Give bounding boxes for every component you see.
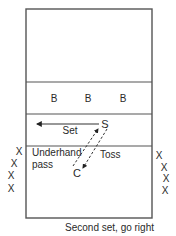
blocker-2: B bbox=[85, 93, 92, 104]
underhand-pass-label: Underhand bbox=[32, 147, 81, 158]
left-line-player-1: X bbox=[16, 146, 23, 157]
blocker-3: B bbox=[120, 93, 127, 104]
left-line-player-3: X bbox=[8, 170, 15, 181]
right-line-player-2: X bbox=[161, 162, 168, 173]
court-lines bbox=[26, 82, 152, 146]
volleyball-drill-diagram: BBB SC XXXXXXXX Set Underhand pass Toss … bbox=[0, 0, 176, 236]
underhand-pass-label-line2: pass bbox=[32, 159, 53, 170]
blocker-1: B bbox=[51, 93, 58, 104]
caption: Second set, go right bbox=[65, 222, 154, 233]
setter-marker: S bbox=[101, 118, 108, 130]
left-line-player-2: X bbox=[11, 158, 18, 169]
left-line-player-4: X bbox=[8, 183, 15, 194]
right-line-player-3: X bbox=[163, 173, 170, 184]
right-line-player-1: X bbox=[156, 150, 163, 161]
toss-label: Toss bbox=[100, 149, 121, 160]
right-line-player-4: X bbox=[162, 185, 169, 196]
blockers-group: BBB bbox=[51, 93, 127, 104]
coach-marker: C bbox=[73, 167, 81, 179]
set-label: Set bbox=[62, 125, 77, 136]
